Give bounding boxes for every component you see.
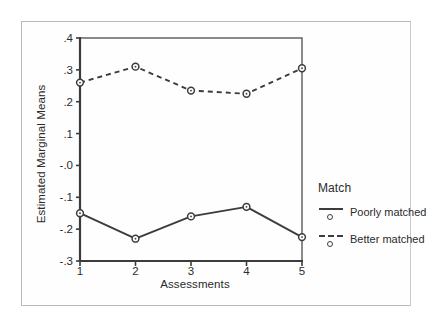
data-point-center: [246, 206, 248, 208]
y-tick-label: .3: [47, 64, 73, 76]
y-tick-label: -.2: [47, 223, 73, 235]
circle-marker-icon: [327, 214, 333, 220]
x-tick-label: 5: [292, 265, 312, 277]
legend-item-poorly-matched[interactable]: Poorly matched: [318, 204, 430, 220]
data-point-center: [135, 238, 137, 240]
x-axis-title: Assessments: [80, 278, 310, 290]
data-point-center: [79, 82, 81, 84]
y-axis-tick-labels: .4.3.2.1-.0-.1-.2-.3: [45, 0, 73, 327]
x-tick-label: 3: [181, 265, 201, 277]
data-point-center: [79, 212, 81, 214]
y-tick-label: -.1: [47, 191, 73, 203]
legend-label-poorly-matched: Poorly matched: [350, 206, 426, 218]
legend: Match Poorly matched Better matched: [318, 181, 430, 258]
x-tick-label: 2: [126, 265, 146, 277]
x-tick-label: 1: [70, 265, 90, 277]
y-tick-label: .4: [47, 32, 73, 44]
circle-marker-icon: [327, 241, 333, 247]
legend-key-dashed-line: [318, 231, 344, 247]
series-line-solid: [80, 207, 302, 239]
figure-container: Estimated Marginal Means Assessments .4.…: [0, 0, 433, 327]
legend-label-better-matched: Better matched: [350, 233, 425, 245]
x-tick-label: 4: [237, 265, 257, 277]
data-point-center: [135, 66, 137, 68]
legend-item-better-matched[interactable]: Better matched: [318, 231, 430, 247]
y-tick-label: .1: [47, 128, 73, 140]
legend-key-solid-line: [318, 204, 344, 220]
data-point-center: [246, 93, 248, 95]
data-point-center: [190, 216, 192, 218]
legend-title: Match: [318, 181, 430, 195]
y-tick-label: .2: [47, 96, 73, 108]
dashed-line-icon: [319, 235, 343, 237]
y-tick-label: -.0: [47, 159, 73, 171]
data-point-center: [301, 236, 303, 238]
solid-line-icon: [319, 208, 343, 210]
data-point-center: [301, 67, 303, 69]
data-point-center: [190, 90, 192, 92]
